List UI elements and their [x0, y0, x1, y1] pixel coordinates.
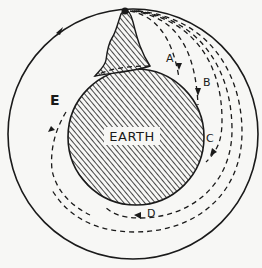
- trajectory-b-arrow-icon: [195, 88, 201, 96]
- trajectory-a-arrow-icon: [176, 63, 182, 70]
- earth-label: EARTH: [109, 129, 154, 144]
- newton-cannonball-diagram: A B C D E EARTH: [0, 0, 262, 268]
- mountain: [95, 10, 150, 76]
- cannon-point: [122, 8, 129, 15]
- trajectory-e-arrow-icon: [48, 126, 55, 132]
- label-a: A: [166, 52, 174, 65]
- label-e: E: [50, 92, 60, 108]
- label-b: B: [203, 76, 211, 89]
- label-d: D: [147, 207, 155, 220]
- label-c: C: [206, 132, 214, 145]
